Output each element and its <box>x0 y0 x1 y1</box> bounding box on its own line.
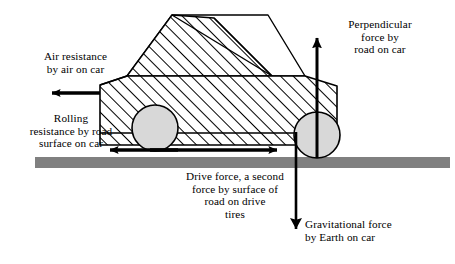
road-surface <box>35 157 450 168</box>
car-greenhouse <box>127 15 305 76</box>
force-diagram-figure: Air resistance by air on car Rolling res… <box>0 0 455 264</box>
air-resistance-label: Air resistance by air on car <box>18 50 133 75</box>
gravitational-force-label: Gravitational force by Earth on car <box>305 218 445 243</box>
perpendicular-force-label: Perpendicular force by road on car <box>320 18 440 56</box>
front-wheel <box>132 105 178 151</box>
drive-force-label: Drive force, a second force by surface o… <box>160 170 310 220</box>
rolling-resistance-label: Rolling resistance by road surface on ca… <box>6 112 136 150</box>
